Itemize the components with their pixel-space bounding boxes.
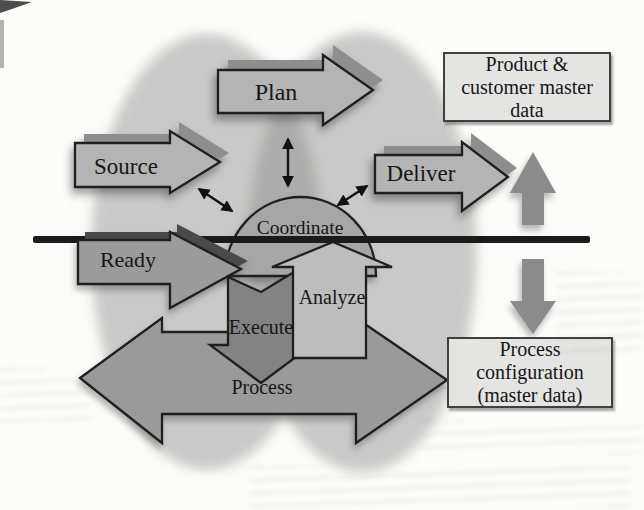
scan-artifacts — [0, 0, 32, 68]
product-box-line-1: Product & — [486, 53, 569, 76]
config-box-line-2: configuration — [476, 361, 584, 384]
deliver-label: Deliver — [387, 161, 456, 186]
corner-scan-mark — [0, 0, 32, 13]
process-label: Process — [231, 376, 292, 398]
page-bleed-artifact — [420, 420, 642, 454]
product-box-line-2: customer master — [461, 76, 593, 99]
page-bleed-artifact — [250, 466, 630, 508]
product-master-data-box: Product & customer master data — [443, 52, 611, 122]
config-box-line-1: Process — [499, 338, 560, 361]
product-box-line-3: data — [510, 99, 543, 122]
source-label: Source — [94, 154, 158, 179]
plan-label: Plan — [255, 79, 298, 105]
down-arrow — [510, 259, 556, 334]
config-box-line-3: (master data) — [478, 384, 583, 407]
analyze-label: Analyze — [299, 286, 366, 309]
page-bleed-artifact — [0, 368, 92, 426]
edge-scan-streak — [0, 20, 4, 68]
up-arrow — [510, 152, 556, 225]
execute-label: Execute — [229, 316, 294, 338]
coordinate-label: Coordinate — [257, 217, 344, 238]
page-bleed-artifact — [556, 272, 642, 352]
scanned-figure-page: Plan Source Deliver Coordinate Ready Exe… — [0, 0, 644, 510]
ready-label: Ready — [100, 247, 156, 272]
